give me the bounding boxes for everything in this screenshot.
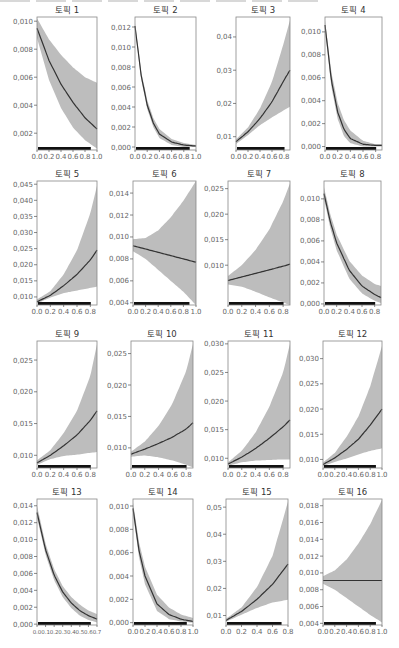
x-tick-label: 0.0	[127, 308, 138, 316]
y-tick-label: 0,010	[13, 293, 33, 301]
y-axis: 0,0000,0020,0040,0060,0080,010	[300, 195, 324, 308]
y-tick-label: 0,002	[111, 124, 131, 132]
y-tick-label: 0,010	[109, 233, 129, 241]
y-axis: 0,0040,0060,0080,0100,0120,0140,0160,018	[299, 502, 323, 628]
x-axis: 0.00.20.40.60.8	[318, 305, 380, 316]
y-tick-label: 0,020	[299, 406, 319, 414]
x-tick-label: 0.8	[278, 471, 289, 479]
x-tick-label: 0.6	[264, 471, 276, 479]
x-tick-label: 0.0	[125, 471, 136, 479]
panel-title: 토픽 12	[338, 329, 368, 339]
y-tick-label: 0,010	[13, 18, 33, 26]
y-tick-label: 0,008	[109, 526, 129, 534]
x-tick-label: 0.8	[365, 628, 376, 636]
x-tick-label: 0.0	[318, 308, 329, 316]
y-tick-label: 0,025	[107, 350, 127, 358]
x-axis: 0.00.20.40.60.8	[230, 150, 289, 161]
y-axis: 0,0000,0020,0040,0060,0080,010	[109, 503, 133, 628]
y-axis: 0,0100,0150,0200,025	[204, 185, 228, 270]
rug-marks	[237, 147, 285, 150]
y-tick-label: 0,010	[300, 195, 320, 203]
x-axis: 0.00.20.40.60.81.0	[31, 150, 102, 161]
x-tick-label: 1.0	[376, 471, 387, 479]
panel-title: 토픽 2	[153, 5, 177, 15]
topic-panel-7: 토픽 70,0100,0150,0200,0250.00.20.40.60.8	[204, 169, 290, 316]
x-axis: 0.00.20.40.60.8	[125, 468, 191, 479]
confidence-band	[135, 23, 196, 147]
y-tick-label: 0,01	[216, 133, 232, 141]
x-tick-label: 0.7	[93, 629, 102, 635]
topic-panel-13: 토픽 130,0000,0020,0040,0060,0080,0100,012…	[13, 487, 102, 635]
rug-marks	[134, 302, 189, 305]
x-tick-label: 0.8	[178, 308, 189, 316]
y-tick-label: 0,000	[109, 619, 129, 627]
x-tick-label: 0.2	[45, 471, 56, 479]
y-tick-label: 0,015	[13, 420, 33, 428]
x-tick-label: 0.8	[370, 153, 381, 161]
x-tick-label: 0.8	[178, 153, 189, 161]
rug-marks	[326, 147, 376, 150]
x-tick-label: 0.0	[319, 153, 330, 161]
x-tick-label: 0.4	[153, 471, 165, 479]
y-tick-label: 0,010	[13, 536, 33, 544]
y-tick-label: 0,015	[204, 426, 224, 434]
x-tick-label: 0.8	[278, 153, 289, 161]
y-tick-label: 0,010	[299, 569, 319, 577]
x-tick-label: 0.2	[236, 628, 247, 636]
y-tick-label: 0,030	[204, 340, 224, 348]
x-tick-label: 0.6	[71, 471, 83, 479]
confidence-band	[228, 344, 290, 466]
x-tick-label: 0.6	[264, 308, 276, 316]
confidence-band	[37, 186, 97, 304]
rug-marks	[38, 622, 91, 625]
x-tick-label: 0.8	[85, 471, 96, 479]
y-tick-label: 0,006	[301, 74, 322, 82]
x-tick-label: 0.2	[332, 153, 343, 161]
confidence-band	[133, 181, 196, 305]
x-axis: 0.00.20.40.60.81.0	[127, 625, 198, 636]
y-axis: 0,0100,0150,0200,025	[107, 350, 131, 452]
rug-marks	[38, 465, 91, 468]
topic-panel-16: 토픽 160,0040,0060,0080,0100,0120,0140,016…	[299, 487, 388, 636]
topic-panel-9: 토픽 90,0100,0150,0200,0250.00.20.40.60.8	[13, 329, 97, 479]
y-tick-label: 0,004	[13, 587, 34, 595]
y-tick-label: 0,002	[301, 120, 321, 128]
y-tick-label: 0,002	[109, 596, 129, 604]
rug-marks	[134, 622, 187, 625]
x-tick-label: 1.0	[91, 153, 102, 161]
y-tick-label: 0,020	[204, 211, 224, 219]
x-tick-label: 0.2	[50, 629, 59, 635]
x-tick-label: 0.1	[41, 629, 50, 635]
topic-panel-6: 토픽 60,0040,0060,0080,0100,0120,0140.00.2…	[109, 169, 202, 316]
panel-title: 토픽 4	[341, 5, 365, 15]
y-tick-label: 0,008	[13, 46, 33, 54]
y-tick-label: 0,018	[299, 502, 319, 510]
plot-frame	[135, 17, 196, 150]
y-tick-label: 0,000	[300, 300, 320, 308]
x-tick-label: 0.2	[139, 628, 150, 636]
topic-panel-4: 토픽 40,0000,0020,0040,0060,0080,0100.00.2…	[301, 5, 382, 161]
x-tick-label: 0.2	[139, 471, 150, 479]
y-tick-label: 0,008	[111, 64, 131, 72]
topic-panel-5: 토픽 50,0100,0150,0200,0250,0300,0350,0400…	[13, 169, 97, 316]
x-axis: 0.00.20.40.60.81.0	[127, 305, 201, 316]
confidence-band	[131, 344, 193, 467]
x-tick-label: 0.6	[163, 628, 175, 636]
y-tick-label: 0,025	[204, 185, 224, 193]
panel-title: 토픽 10	[147, 329, 177, 339]
y-tick-label: 0,030	[299, 355, 319, 363]
y-axis: 0,0100,0150,0200,0250,0300,0350,0400,045	[13, 181, 37, 302]
x-tick-label: 0.0	[230, 153, 241, 161]
topic-effect-plot-grid: 토픽 10,0020,0040,0060,0080,0100.00.20.40.…	[0, 0, 399, 648]
x-tick-label: 0.4	[341, 471, 353, 479]
y-axis: 0,010,020,030,04	[216, 33, 236, 141]
y-tick-label: 0,03	[216, 67, 232, 75]
x-tick-label: 0.0	[220, 628, 231, 636]
y-axis: 0,010,020,030,040,05	[206, 504, 226, 620]
x-tick-label: 0.2	[142, 153, 153, 161]
x-tick-label: 0.0	[222, 308, 233, 316]
x-tick-label: 0.6	[165, 308, 177, 316]
x-tick-label: 1.0	[376, 628, 387, 636]
confidence-band	[228, 184, 290, 305]
x-tick-label: 0.0	[127, 628, 138, 636]
